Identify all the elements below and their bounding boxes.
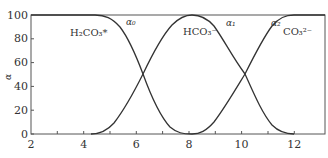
y-axis-label: α <box>3 74 13 80</box>
label-h2co3: H₂CO₃* <box>70 27 108 38</box>
x-tick-labels: 2 4 6 8 10 12 <box>28 138 302 151</box>
x-tick-12: 12 <box>287 138 301 151</box>
x-tick-10: 10 <box>235 138 249 151</box>
label-co3: CO₃²⁻ <box>283 26 312 37</box>
y-tick-40: 40 <box>14 80 28 93</box>
y-tick-100: 100 <box>7 9 28 22</box>
y-tick-60: 60 <box>14 56 28 69</box>
x-tick-4: 4 <box>80 138 87 151</box>
label-hco3: HCO₃⁻ <box>183 26 217 37</box>
y-tick-80: 80 <box>14 32 28 45</box>
x-tick-2: 2 <box>28 138 35 151</box>
x-tick-8: 8 <box>186 138 193 151</box>
y-tick-20: 20 <box>14 104 28 117</box>
speciation-chart: 0 20 40 60 80 100 α 2 4 6 8 10 12 H₂CO₃*… <box>0 0 328 158</box>
x-tick-6: 6 <box>133 138 140 151</box>
label-alpha0: α₀ <box>126 17 136 27</box>
label-alpha1: α₁ <box>226 18 236 28</box>
label-alpha2: α₂ <box>271 18 281 28</box>
curve-alpha0 <box>31 15 192 134</box>
